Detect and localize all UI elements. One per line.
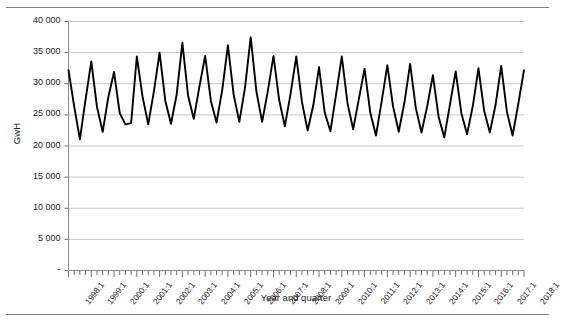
y-tick-label: 15 000 bbox=[9, 171, 61, 181]
y-tick-label: 10 000 bbox=[9, 202, 61, 212]
y-tick-marks-group bbox=[65, 22, 69, 271]
y-tick-label: 35 000 bbox=[9, 46, 61, 56]
y-tick-label: 40 000 bbox=[9, 15, 61, 25]
gridlines-group bbox=[69, 22, 525, 240]
y-tick-label: 30 000 bbox=[9, 77, 61, 87]
y-tick-label: 25 000 bbox=[9, 108, 61, 118]
x-tick-marks-group bbox=[69, 271, 525, 277]
y-tick-label: 20 000 bbox=[9, 140, 61, 150]
y-tick-label: 5 000 bbox=[9, 233, 61, 243]
y-tick-label: - bbox=[9, 264, 61, 274]
